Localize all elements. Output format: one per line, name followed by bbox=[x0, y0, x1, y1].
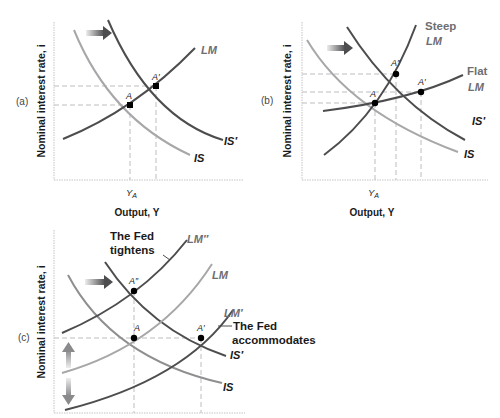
panel-b-tag: (b) bbox=[261, 95, 273, 106]
point-a-prime bbox=[418, 89, 424, 95]
shift-arrow-head-icon bbox=[344, 41, 353, 55]
flat-lm-curve bbox=[323, 75, 463, 111]
label-point-a-prime: A′ bbox=[151, 72, 160, 82]
is-prime-curve bbox=[105, 262, 226, 356]
is-prime-curve bbox=[347, 27, 465, 140]
panel-b-y-axis-label: Nominal interest rate, i bbox=[281, 44, 293, 157]
panel-c bbox=[54, 230, 245, 413]
label-lm: LM bbox=[201, 44, 218, 56]
point-a-prime bbox=[198, 335, 204, 341]
down-arrow-head-icon bbox=[62, 395, 75, 405]
up-arrow-head-icon bbox=[62, 342, 75, 352]
leader-line bbox=[163, 255, 170, 260]
annotation-fed-tightens-line2: tightens bbox=[110, 244, 155, 256]
x-tick-ya: YA bbox=[368, 187, 379, 199]
panel-a-y-axis-label: Nominal interest rate, i bbox=[35, 44, 47, 157]
x-tick-ya: YA bbox=[126, 187, 137, 199]
down-arrow-icon bbox=[66, 378, 71, 396]
panel-b-x-axis-label: Output, Y bbox=[350, 207, 395, 218]
up-arrow-icon bbox=[66, 350, 71, 368]
label-steep: Steep bbox=[425, 20, 456, 32]
point-a bbox=[372, 100, 378, 106]
is-curve bbox=[307, 40, 458, 152]
label-point-a: A bbox=[133, 323, 140, 333]
label-steep-lm: LM bbox=[426, 35, 443, 47]
shift-arrow-head-icon bbox=[104, 275, 113, 289]
label-is: IS bbox=[194, 152, 205, 164]
label-point-a-double-prime: A″ bbox=[390, 58, 401, 68]
label-point-a: A bbox=[369, 89, 376, 99]
panel-c-y-axis-label: Nominal interest rate, i bbox=[35, 265, 47, 378]
panel-c-tag: (c) bbox=[18, 332, 30, 343]
label-point-a-double-prime: A″ bbox=[128, 276, 139, 286]
label-is-prime: IS′ bbox=[230, 349, 244, 361]
is-prime-curve bbox=[108, 20, 223, 140]
point-a bbox=[127, 102, 133, 108]
shift-arrow-icon bbox=[327, 45, 345, 51]
label-flat: Flat bbox=[467, 65, 488, 77]
label-lm: LM bbox=[212, 269, 229, 281]
label-lm-prime: LM′ bbox=[224, 307, 244, 319]
point-a bbox=[131, 335, 137, 341]
panel-b bbox=[302, 22, 488, 180]
point-a-double-prime bbox=[131, 288, 137, 294]
panel-a-x-axis-label: Output, Y bbox=[115, 207, 160, 218]
label-point-a-prime: A′ bbox=[417, 77, 426, 87]
lm-prime-curve bbox=[65, 310, 233, 410]
point-a-prime bbox=[153, 83, 159, 89]
annotation-fed-accommodates-line1: The Fed bbox=[233, 320, 277, 332]
shift-arrow-icon bbox=[85, 279, 105, 285]
point-a-double-prime bbox=[393, 71, 399, 77]
panel-a-tag: (a) bbox=[16, 96, 28, 107]
label-point-a-prime: A′ bbox=[196, 323, 205, 333]
islm-diagram: (a) Nominal interest rate, i LM IS′ IS A… bbox=[0, 0, 500, 418]
annotation-fed-accommodates-line2: accommodates bbox=[232, 334, 316, 346]
label-is-prime: IS′ bbox=[224, 135, 238, 147]
label-is: IS bbox=[223, 381, 234, 393]
annotation-fed-tightens-line1: The Fed bbox=[110, 230, 154, 242]
label-lm-double-prime: LM″ bbox=[187, 233, 209, 245]
label-flat-lm: LM bbox=[468, 81, 485, 93]
label-is-prime: IS′ bbox=[472, 115, 486, 127]
label-point-a: A bbox=[125, 91, 132, 101]
label-is: IS bbox=[464, 148, 475, 160]
shift-arrow-icon bbox=[86, 30, 104, 36]
